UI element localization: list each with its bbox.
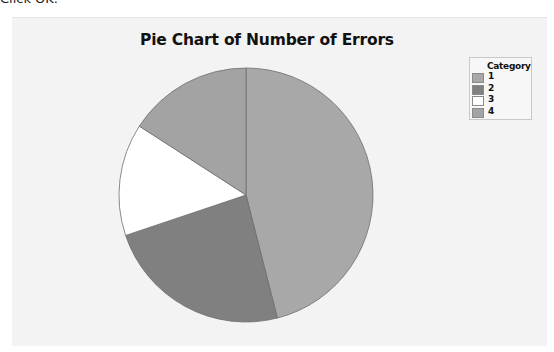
pie-chart: [0, 0, 554, 352]
